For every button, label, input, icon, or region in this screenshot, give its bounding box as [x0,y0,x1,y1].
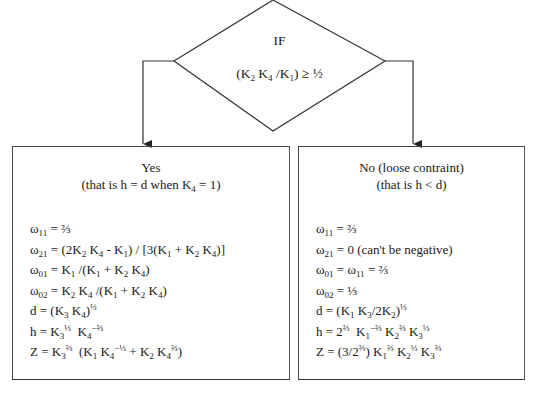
equation-z: Z = (3/2⅔) K1⅔ K2⅓ K3⅔ [316,342,520,363]
equation-w02: ω02 = ⅓ [316,281,520,302]
yes-arrow [143,61,174,144]
no-arrow [385,61,413,144]
equation-w21: ω21 = (2K2 K4 - K1) / [3(K1 + K2 K4)] [30,240,285,261]
no-branch-box: No (loose contraint) (that is h < d) ω11… [298,146,525,380]
no-subtitle: (that is h < d) [299,176,524,193]
equation-w11: ω11 = ⅔ [316,219,520,240]
equation-w02: ω02 = K2 K4 /(K1 + K2 K4) [30,281,285,302]
decision-label: IF [174,33,385,49]
equation-d: d = (K3 K4)⅓ [30,301,285,322]
yes-branch-header: Yes (that is h = d when K4 = 1) [13,159,289,193]
equation-w01: ω01 = ω11 = ⅔ [316,260,520,281]
yes-subtitle: (that is h = d when K4 = 1) [13,176,289,193]
decision-condition: (K2 K4 /K1) ≥ ½ [174,66,385,82]
no-equations: ω11 = ⅔ ω21 = 0 (can't be negative) ω01 … [316,219,520,363]
yes-branch-box: Yes (that is h = d when K4 = 1) ω11 = ⅔ … [12,146,290,380]
equation-w01: ω01 = K1 /(K1 + K2 K4) [30,260,285,281]
equation-d: d = (K1 K3/2K2)⅓ [316,301,520,322]
no-title: No (loose contraint) [299,159,524,176]
yes-title: Yes [13,159,289,176]
equation-w11: ω11 = ⅔ [30,219,285,240]
equation-h: h = K3⅓ K4−⅔ [30,322,285,343]
equation-z: Z = K3⅔ (K1 K4−⅓ + K2 K4⅔) [30,342,285,363]
yes-equations: ω11 = ⅔ ω21 = (2K2 K4 - K1) / [3(K1 + K2… [30,219,285,363]
equation-w21: ω21 = 0 (can't be negative) [316,240,520,261]
no-branch-header: No (loose contraint) (that is h < d) [299,159,524,193]
equation-h: h = 2⅔ K1−⅔ K2⅔ K3⅓ [316,322,520,343]
